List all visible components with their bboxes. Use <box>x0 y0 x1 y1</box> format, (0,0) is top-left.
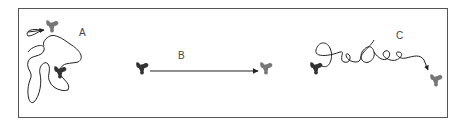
molecule-start-icon <box>310 62 322 74</box>
molecule-start-icon <box>46 20 58 32</box>
panel-a: A <box>27 20 86 102</box>
panel-b: B <box>136 50 272 74</box>
molecule-end-icon <box>260 62 272 74</box>
looping-path-c <box>316 40 428 70</box>
panel-label-b: B <box>178 50 185 61</box>
molecule-start-icon <box>136 62 148 74</box>
molecule-end-icon <box>430 74 442 86</box>
panel-label-c: C <box>396 30 403 41</box>
panel-c: C <box>310 30 442 86</box>
panel-label-a: A <box>79 27 86 38</box>
diagram-canvas: A B C <box>0 0 468 127</box>
random-walk-path-a <box>27 29 81 102</box>
